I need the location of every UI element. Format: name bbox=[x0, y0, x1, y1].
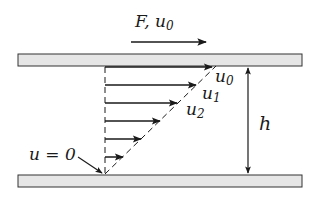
label-u1: u1 bbox=[202, 83, 221, 105]
svg-text:F, u0: F, u0 bbox=[134, 11, 174, 33]
bottom-plate bbox=[18, 175, 302, 187]
gap-height-label: h bbox=[259, 112, 271, 134]
label-u0: u0 bbox=[215, 66, 234, 88]
top-plate bbox=[18, 54, 302, 66]
couette-flow-diagram: F, u0 u0 u1 u2 h u = 0 bbox=[0, 0, 314, 201]
wall-condition-label: u = 0 bbox=[29, 144, 76, 164]
wall-condition-pointer bbox=[78, 157, 102, 173]
top-plate-motion-label: F, u0 bbox=[134, 11, 174, 33]
